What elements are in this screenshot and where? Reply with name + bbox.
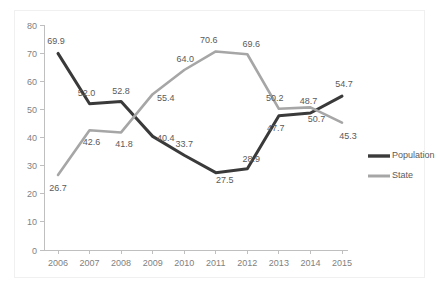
data-label-state-2011: 70.6	[200, 35, 218, 45]
data-label-population-2011: 27.5	[216, 175, 234, 185]
legend-label-population: Population	[392, 150, 435, 160]
y-axis-tick-label: 70	[27, 49, 37, 59]
data-label-state-2012: 69.6	[243, 39, 261, 49]
data-label-population-2007: 52.0	[78, 88, 96, 98]
x-axis-tick-label: 2015	[332, 258, 352, 268]
data-label-population-2015: 54.7	[335, 79, 353, 89]
x-axis-tick-label: 2014	[300, 258, 320, 268]
data-label-state-2007: 42.6	[83, 137, 101, 147]
data-label-population-2010: 33.7	[175, 139, 193, 149]
chart-plot-area: 8070605040302010020062007200820092010201…	[0, 0, 440, 290]
x-axis-tick-label: 2011	[206, 258, 225, 268]
data-label-state-2008: 41.8	[115, 139, 133, 149]
data-label-state-2006: 26.7	[49, 183, 67, 193]
series-line-population	[58, 53, 342, 172]
data-label-state-2013: 50.2	[266, 93, 284, 103]
x-axis-tick-label: 2012	[237, 258, 257, 268]
data-label-population-2012: 28.9	[243, 154, 261, 164]
y-axis-tick-label: 0	[32, 246, 37, 256]
data-label-population-2008: 52.8	[112, 86, 130, 96]
y-axis-tick-label: 40	[27, 133, 37, 143]
x-axis-tick-label: 2013	[269, 258, 289, 268]
y-axis-tick-label: 20	[27, 189, 37, 199]
data-label-state-2014: 50.7	[308, 114, 326, 124]
x-axis-tick-label: 2010	[174, 258, 194, 268]
legend-label-state: State	[392, 170, 413, 180]
data-label-state-2009: 55.4	[157, 93, 175, 103]
y-axis-tick-label: 50	[27, 105, 37, 115]
data-label-population-2013: 47.7	[267, 123, 285, 133]
y-axis-tick-label: 60	[27, 77, 37, 87]
data-label-state-2010: 64.0	[176, 54, 194, 64]
x-axis-tick-label: 2007	[80, 258, 100, 268]
x-axis-tick-label: 2008	[111, 258, 131, 268]
data-label-population-2006: 69.9	[47, 36, 65, 46]
y-axis-tick-label: 30	[27, 161, 37, 171]
y-axis-tick-label: 10	[27, 217, 37, 227]
line-chart: 8070605040302010020062007200820092010201…	[0, 0, 440, 290]
x-axis-tick-label: 2009	[143, 258, 163, 268]
data-label-population-2009: 40.4	[157, 133, 175, 143]
data-label-population-2014: 48.7	[300, 96, 318, 106]
y-axis-tick-label: 80	[27, 21, 37, 31]
data-label-state-2015: 45.3	[339, 131, 357, 141]
x-axis-tick-label: 2006	[48, 258, 68, 268]
